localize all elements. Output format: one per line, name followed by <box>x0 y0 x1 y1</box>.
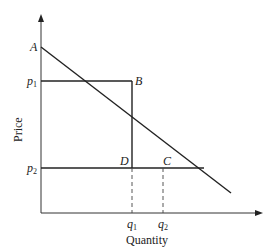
point-label-a: A <box>29 40 38 54</box>
point-label-c: C <box>163 154 172 168</box>
point-label-d: D <box>119 154 129 168</box>
point-label-b: B <box>135 74 143 88</box>
x-axis-label: Quantity <box>126 233 168 247</box>
q2-label: q2 <box>158 217 168 232</box>
q1-label: q1 <box>127 217 137 232</box>
p1-label: p1 <box>26 74 37 89</box>
y-axis-label: Price <box>11 117 25 142</box>
demand-line <box>41 47 231 193</box>
p2-label: p2 <box>26 161 37 176</box>
economics-diagram: A B D C p1 p2 q1 q2 Quantity Price <box>0 0 279 252</box>
